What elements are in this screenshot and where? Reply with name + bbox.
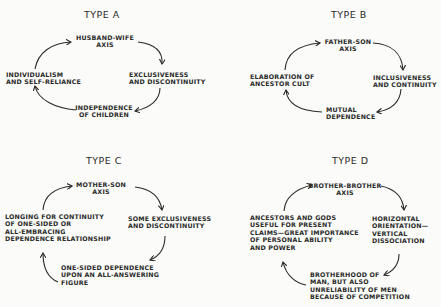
node-left: ANCESTORS AND GODS USEFUL FOR PRESENT CL… <box>250 214 359 251</box>
node-bottom: MUTUAL DEPENDENCE <box>326 106 375 121</box>
node-right: EXCLUSIVENESS AND DISCONTINUITY <box>129 71 206 86</box>
node-right: SOME EXCLUSIVENESS AND DISCONTINUITY <box>128 215 211 230</box>
node-top: FATHER-SON AXIS <box>321 38 375 53</box>
node-bottom: ONE-SIDED DEPENDENCE UPON AN ALL-ANSWERI… <box>61 264 159 286</box>
node-right: HORIZONTAL ORIENTATION— VERTICAL DISSOCI… <box>372 215 428 245</box>
node-left: LONGING FOR CONTINUITY OF ONE-SIDED OR A… <box>5 213 111 243</box>
node-bottom: BROTHERHOOD OF MAN, BUT ALSO UNRELIABILI… <box>310 271 410 301</box>
node-right: INCLUSIVENESS AND CONTINUITY <box>373 74 437 89</box>
diagram-title: TYPE C <box>86 155 122 166</box>
node-left: INDIVIDUALISM AND SELF-RELIANCE <box>6 71 81 86</box>
node-top: MOTHER-SON AXIS <box>70 181 132 196</box>
node-left: ELABORATION OF ANCESTOR CULT <box>250 73 314 88</box>
node-bottom: INDEPENDENCE OF CHILDREN <box>72 104 136 119</box>
diagram-title: TYPE A <box>84 9 120 20</box>
diagram-title: TYPE B <box>331 9 367 20</box>
node-top: BROTHER-BROTHER AXIS <box>307 182 383 197</box>
diagram-title: TYPE D <box>332 155 369 166</box>
node-top: HUSBAND-WIFE AXIS <box>70 34 140 49</box>
